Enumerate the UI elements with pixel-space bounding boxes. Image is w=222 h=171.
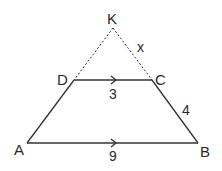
segment-bc — [152, 80, 198, 143]
segment-kc — [113, 28, 152, 80]
point-label-d: D — [57, 71, 68, 88]
length-label-cb: 4 — [182, 102, 190, 118]
length-label-ab: 9 — [109, 148, 117, 164]
point-label-a: A — [14, 141, 24, 158]
length-label-kc: x — [137, 39, 144, 55]
point-label-k: K — [107, 10, 117, 27]
trapezoid-diagram: K D C A B x 3 4 9 — [0, 0, 222, 171]
point-label-b: B — [200, 143, 210, 160]
length-label-dc: 3 — [109, 86, 117, 102]
point-label-c: C — [155, 71, 166, 88]
segment-kd — [74, 28, 113, 80]
segment-ad — [27, 80, 74, 143]
